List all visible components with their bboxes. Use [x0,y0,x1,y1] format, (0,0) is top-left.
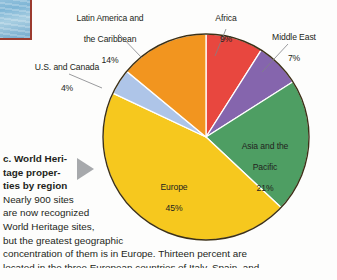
caption-body-line: World Heritage sites, [3,220,337,234]
pie-label-africa: Africa 9% [196,3,256,55]
figure-caption-lines: c. World Heri-tage proper-ties by region… [3,152,337,268]
caption-body-line: located in the three European countries … [3,261,337,268]
pie-label-us-canada-value: 4% [18,83,116,93]
pie-label-africa-name: Africa [196,13,256,23]
pie-label-middle-east-value: 7% [256,53,332,63]
pie-label-asia-pacific-name: Asia and the [228,141,302,151]
caption-heading-line: tage proper- [3,166,337,180]
figure-caption: c. World Heri-tage proper-ties by region… [3,152,337,268]
caption-body-line: concentration of them is in Europe. Thir… [3,247,337,261]
caption-body-line: but the greatest geographic [3,234,337,248]
pie-label-us-canada-name: U.S. and Canada [18,62,116,72]
pie-label-africa-value: 9% [196,34,256,44]
pie-label-middle-east: Middle East 7% [256,22,332,74]
caption-body-line: Nearly 900 sites [3,193,337,207]
pie-label-us-canada: U.S. and Canada 4% [18,52,116,104]
caption-heading-line: ties by region [3,179,337,193]
caption-body-line: are now recognized [3,206,337,220]
pie-label-middle-east-name: Middle East [256,32,332,42]
pie-label-latin-america-name: Latin America and [58,13,162,23]
caption-heading-line: c. World Heri- [3,152,337,166]
pie-label-latin-america-name2: the Caribbean [58,34,162,44]
